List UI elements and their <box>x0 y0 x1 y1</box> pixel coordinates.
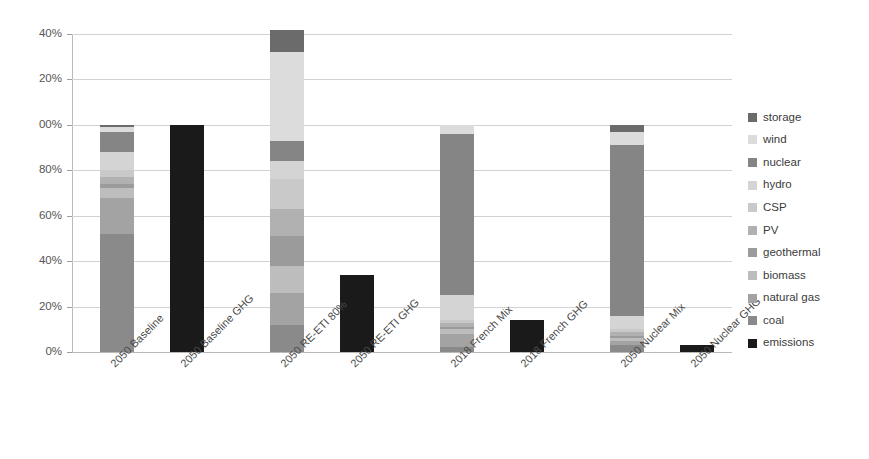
stacked-bar-chart: 40%20%00%80%60%40%20%0% 2050 Baseline205… <box>0 0 869 459</box>
legend-swatch-icon <box>748 203 757 212</box>
legend-label: coal <box>763 315 784 327</box>
legend-item: CSP <box>748 196 866 219</box>
x-axis-label: 2050 RE-ETI GHG <box>348 296 421 369</box>
legend-swatch-icon <box>748 294 757 303</box>
legend-swatch-icon <box>748 135 757 144</box>
legend-swatch-icon <box>748 339 757 348</box>
legend-label: nuclear <box>763 157 801 169</box>
legend-item: coal <box>748 309 866 332</box>
legend-item: geothermal <box>748 242 866 265</box>
legend-item: nuclear <box>748 151 866 174</box>
legend-label: biomass <box>763 270 806 282</box>
legend-label: PV <box>763 225 778 237</box>
legend-label: hydro <box>763 179 792 191</box>
legend-swatch-icon <box>748 316 757 325</box>
legend-label: storage <box>763 112 801 124</box>
legend-swatch-icon <box>748 181 757 190</box>
legend-label: natural gas <box>763 292 820 304</box>
x-axis-category-labels: 2050 Baseline2050 Baseline GHG2050 RE-ET… <box>0 0 869 459</box>
legend-swatch-icon <box>748 113 757 122</box>
legend-label: geothermal <box>763 247 821 259</box>
legend-label: wind <box>763 134 787 146</box>
legend-swatch-icon <box>748 248 757 257</box>
legend-swatch-icon <box>748 271 757 280</box>
legend-item: wind <box>748 129 866 152</box>
legend-swatch-icon <box>748 226 757 235</box>
legend-swatch-icon <box>748 158 757 167</box>
x-axis-label: 2050 RE-ETI 80% <box>278 298 349 369</box>
legend-item: storage <box>748 106 866 129</box>
x-axis-label: 2050 Baseline <box>108 312 166 370</box>
legend-item: hydro <box>748 174 866 197</box>
x-axis-label: 2018 French GHG <box>518 297 590 369</box>
x-axis-label: 2050 Nuclear Mix <box>618 300 687 369</box>
legend-label: emissions <box>763 337 814 349</box>
legend-item: PV <box>748 219 866 242</box>
legend-label: CSP <box>763 202 787 214</box>
legend-item: emissions <box>748 332 866 355</box>
legend-item: natural gas <box>748 287 866 310</box>
x-axis-label: 2050 Baseline GHG <box>178 292 256 370</box>
x-axis-label: 2018 French Mix <box>448 303 514 369</box>
legend-item: biomass <box>748 264 866 287</box>
chart-legend: storagewindnuclearhydroCSPPVgeothermalbi… <box>748 106 866 355</box>
